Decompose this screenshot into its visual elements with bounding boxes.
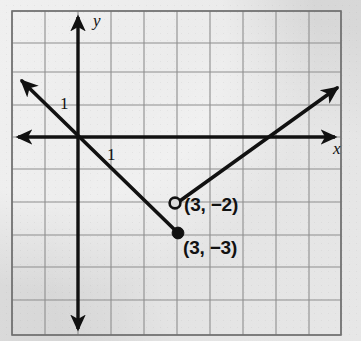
x-axis-tick-label-1: 1 (107, 146, 116, 163)
y-axis-label: y (93, 12, 101, 29)
closed-point-label: (3, −3) (183, 238, 237, 257)
grid-lines (12, 11, 341, 335)
coordinate-plane-svg (0, 0, 361, 341)
open-circle-marker (170, 198, 181, 209)
y-axis-tick-label-1: 1 (60, 95, 69, 112)
open-point-label: (3, −2) (184, 195, 238, 214)
graph-figure: y x 1 1 (3, −2) (3, −3) (0, 0, 361, 341)
x-axis-label: x (333, 140, 341, 157)
